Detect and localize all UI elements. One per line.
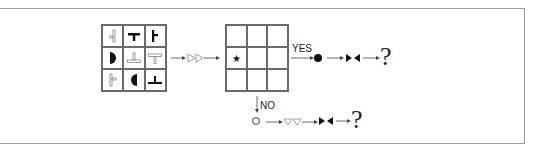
grid-cell-down-tee-bold	[123, 25, 144, 47]
hollow-circle-icon	[251, 116, 261, 126]
arrow-icon	[363, 55, 381, 61]
grid-cell	[247, 25, 268, 47]
yes-arrow	[291, 55, 315, 61]
grid-cell-up-tee-outline	[123, 47, 144, 69]
right-tee-outline-icon	[106, 72, 120, 88]
grid-cell-down-tee-outline	[145, 47, 166, 69]
input-grid	[101, 24, 167, 92]
grid-cell	[226, 25, 247, 47]
grid-cell-right-tee-bold	[145, 25, 166, 47]
side-tee-outline-icon	[106, 28, 120, 44]
grid-cell-up-tee-bold	[145, 69, 166, 91]
arrow-icon	[327, 55, 345, 61]
down-tee-icon	[127, 29, 141, 43]
right-tee-icon	[148, 28, 162, 44]
grid-cell	[226, 69, 247, 91]
arrow-icon	[336, 118, 352, 124]
no-transform-arrow	[266, 118, 326, 126]
down-tee-outline-icon	[147, 51, 163, 65]
grid-cell	[247, 47, 268, 69]
half-circle-icon	[127, 72, 141, 88]
bowtie-operator-icon	[318, 116, 334, 126]
no-label: NO	[260, 100, 275, 111]
grid-cell	[247, 69, 268, 91]
grid-cell	[267, 47, 288, 69]
grid-cell	[267, 69, 288, 91]
grid-cell-half-circle-right	[123, 69, 144, 91]
grid-cell-small-side-tee	[102, 25, 123, 47]
filled-circle-icon	[313, 53, 323, 63]
grid-cell	[267, 25, 288, 47]
star-icon: ★	[232, 53, 241, 64]
half-circle-icon	[106, 50, 120, 66]
yes-label: YES	[292, 43, 312, 54]
grid-cell-right-tee-outline	[102, 69, 123, 91]
up-tee-icon	[147, 73, 163, 87]
transform-arrow	[170, 52, 222, 64]
grid-cell-half-circle-left	[102, 47, 123, 69]
grid-cell-marked: ★	[226, 47, 247, 69]
bowtie-operator-icon	[345, 53, 361, 63]
output-grid: ★	[225, 24, 289, 92]
up-tee-outline-icon	[126, 51, 142, 65]
unknown-result-yes: ?	[380, 44, 392, 70]
unknown-result-no: ?	[351, 107, 363, 133]
